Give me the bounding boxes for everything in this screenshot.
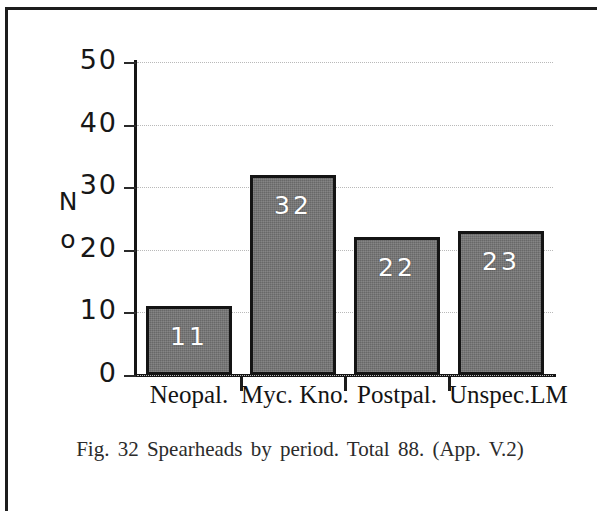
frame-top-rule [5,7,597,10]
y-axis-tick-mark [124,250,136,252]
bar-value-label: 23 [461,247,541,276]
bar: 23 [458,231,544,375]
gridline [137,187,553,188]
y-axis-tick-label: 10 [52,294,118,325]
bar-value-label: 32 [253,191,333,220]
x-axis-category-label: Postpal. [345,381,449,409]
y-axis-tick-mark [124,62,136,64]
y-axis-tick-label: 20 [52,232,118,263]
gridline [137,125,553,126]
gridline [137,62,553,63]
y-axis-tick-label: 50 [52,44,118,75]
y-axis-tick-label: 0 [52,357,118,388]
x-axis-category-label: Unspec.LM [449,381,553,409]
y-axis-tick-mark [124,312,136,314]
y-axis-tick-label: 30 [52,169,118,200]
frame-left-rule [5,7,8,511]
x-axis-category-label: Myc. Kno. [241,381,345,409]
bar: 11 [146,306,232,375]
bar-value-label: 22 [357,253,437,282]
y-axis-tick-mark [124,375,136,377]
plot-area: 11322223 [137,62,553,375]
figure-caption: Fig. 32 Spearheads by period. Total 88. … [0,437,600,462]
x-axis-category-label: Neopal. [137,381,241,409]
figure-frame: N o 01020304050 11322223 Neopal.Myc. Kno… [0,0,600,511]
gridline [137,375,553,376]
bar: 22 [354,237,440,375]
bar: 32 [250,175,336,375]
y-axis-tick-label: 40 [52,107,118,138]
bar-value-label: 11 [149,322,229,351]
y-axis-tick-mark [124,187,136,189]
y-axis-tick-mark [124,125,136,127]
